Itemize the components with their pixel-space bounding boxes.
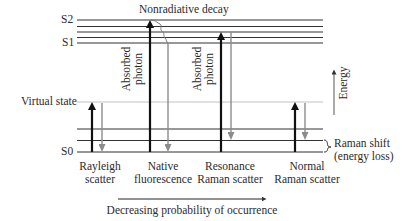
process-line1: Normal — [270, 160, 344, 173]
label-absorbed-photon-fluorescence: Absorbed photon — [120, 39, 146, 99]
label-resonance-raman-scatter: Resonance Raman scatter — [192, 160, 268, 186]
absorbed-line2: photon — [132, 39, 144, 99]
process-line1: Native — [126, 160, 200, 173]
process-line2: scatter — [72, 173, 128, 186]
raman-shift-line1: Raman shift — [334, 137, 394, 150]
absorbed-line1: Absorbed — [191, 39, 203, 99]
label-normal-raman-scatter: Normal Raman scatter — [270, 160, 344, 186]
ground-state-levels — [77, 129, 323, 152]
absorbed-line2: photon — [203, 39, 215, 99]
process-line2: fluorescence — [126, 173, 200, 186]
label-nonradiative-decay: Nonradiative decay — [139, 3, 229, 16]
process-line1: Rayleigh — [72, 160, 128, 173]
raman-shift-brace — [324, 140, 331, 152]
energy-diagram-canvas — [0, 0, 406, 221]
label-rayleigh-scatter: Rayleigh scatter — [72, 160, 128, 186]
label-absorbed-photon-resonance: Absorbed photon — [191, 39, 217, 99]
label-energy: Energy — [337, 61, 351, 105]
label-s2: S2 — [61, 13, 73, 26]
label-s1: S1 — [62, 36, 74, 49]
absorbed-line1: Absorbed — [120, 39, 132, 99]
process-line2: Raman scatter — [270, 173, 344, 186]
label-decreasing-probability: Decreasing probability of occurrence — [100, 204, 284, 217]
label-s0: S0 — [61, 145, 73, 158]
process-line1: Resonance — [192, 160, 268, 173]
label-native-fluorescence: Native fluorescence — [126, 160, 200, 186]
process-line2: Raman scatter — [192, 173, 268, 186]
label-virtual-state: Virtual state — [21, 95, 77, 108]
